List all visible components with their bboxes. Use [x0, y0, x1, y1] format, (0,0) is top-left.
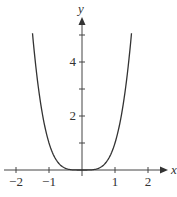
y-axis	[79, 17, 86, 176]
x-tick-label: 1	[112, 174, 119, 189]
y-ticks: 24	[70, 35, 86, 143]
x-tick-label: 2	[145, 174, 152, 189]
x-tick-label: −1	[42, 174, 56, 189]
function-plot: −2−112 24 x y	[0, 0, 177, 197]
y-tick-label: 2	[70, 108, 77, 123]
y-axis-arrow-icon	[79, 17, 86, 25]
x-axis-arrow-icon	[160, 167, 168, 174]
x-axis-label: x	[170, 162, 177, 177]
y-tick-label: 4	[70, 54, 77, 69]
y-axis-label: y	[76, 1, 84, 16]
x-tick-label: −2	[9, 174, 23, 189]
